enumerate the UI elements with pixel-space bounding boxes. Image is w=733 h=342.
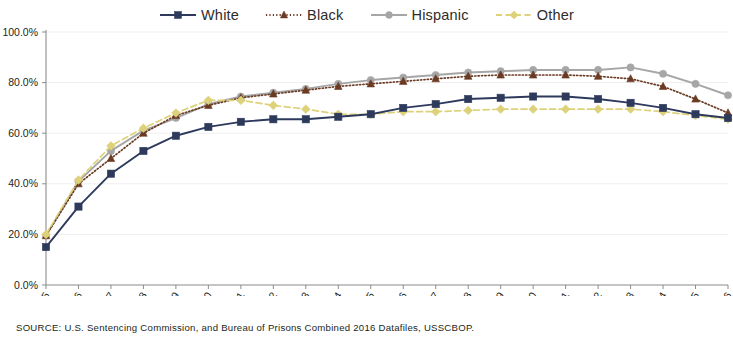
chart-figure: WhiteBlackHispanicOther 0.0%20.0%40.0%60… xyxy=(0,0,733,342)
x-axis-tick-label: 1997 xyxy=(94,290,117,296)
x-axis-tick-label: 2011 xyxy=(549,290,571,296)
data-point xyxy=(594,105,603,114)
x-axis-tick-label: 2014 xyxy=(646,290,669,296)
data-point xyxy=(627,64,634,71)
series-line xyxy=(46,67,728,235)
x-axis-tick-label: 2005 xyxy=(354,290,377,296)
data-point xyxy=(724,114,731,121)
x-axis-tick-label: 2006 xyxy=(386,290,409,296)
data-point xyxy=(367,111,374,118)
data-point xyxy=(302,116,309,123)
legend-label: White xyxy=(201,7,239,23)
x-axis-tick-label: 2015 xyxy=(679,290,702,296)
y-axis-tick-label: 100.0% xyxy=(2,26,38,38)
data-point xyxy=(431,107,440,116)
data-point xyxy=(724,92,731,99)
legend-label: Black xyxy=(307,7,343,23)
x-axis-tick-label: 2007 xyxy=(419,290,442,296)
data-point xyxy=(205,123,212,130)
data-point xyxy=(400,104,407,111)
data-point xyxy=(627,99,634,106)
data-point xyxy=(464,106,473,115)
legend-item-other: Other xyxy=(495,7,574,23)
source-note: SOURCE: U.S. Sentencing Commission, and … xyxy=(16,322,474,333)
plot-area: 0.0%20.0%40.0%60.0%80.0%100.0%1995199619… xyxy=(0,24,733,296)
series-line xyxy=(46,97,728,248)
x-axis-tick-label: 1998 xyxy=(127,290,150,296)
x-axis-tick-label: 2009 xyxy=(484,290,507,296)
series-line xyxy=(46,100,728,234)
y-axis-tick-label: 20.0% xyxy=(8,228,38,240)
x-axis-tick-label: 1999 xyxy=(159,290,182,296)
x-axis-tick-label: 2008 xyxy=(451,290,474,296)
legend-item-hispanic: Hispanic xyxy=(370,7,469,23)
data-point xyxy=(432,101,439,108)
legend-swatch-white-icon xyxy=(159,8,197,22)
series-other xyxy=(42,96,733,239)
x-axis-tick-label: 2000 xyxy=(192,290,215,296)
data-point xyxy=(107,170,114,177)
data-point xyxy=(594,95,601,102)
x-axis-tick-label: 1996 xyxy=(62,290,85,296)
data-point xyxy=(42,243,49,250)
data-point xyxy=(269,101,278,110)
data-point xyxy=(140,147,147,154)
data-point xyxy=(75,203,82,210)
data-point xyxy=(496,105,505,114)
legend-swatch-hispanic-icon xyxy=(370,8,408,22)
x-axis-tick-label: 2004 xyxy=(321,290,344,296)
data-point xyxy=(659,104,666,111)
x-axis-tick-label: 2012 xyxy=(581,290,604,296)
x-axis-tick-label: 2003 xyxy=(289,290,312,296)
x-axis-tick-label: 2001 xyxy=(224,290,247,296)
x-axis-tick-label: 2010 xyxy=(516,290,539,296)
series-line xyxy=(46,75,728,236)
data-point xyxy=(692,80,699,87)
legend-label: Hispanic xyxy=(412,7,469,23)
data-point xyxy=(529,105,538,114)
data-point xyxy=(237,118,244,125)
legend-swatch-black-icon xyxy=(265,8,303,22)
data-point xyxy=(561,105,570,114)
legend-label: Other xyxy=(537,7,574,23)
data-point xyxy=(301,105,310,114)
data-point xyxy=(497,94,504,101)
data-point xyxy=(172,132,179,139)
legend-item-black: Black xyxy=(265,7,343,23)
y-axis-tick-label: 0.0% xyxy=(14,279,38,291)
legend-swatch-other-icon xyxy=(495,8,533,22)
x-axis-tick-label: 2002 xyxy=(256,290,279,296)
x-axis-tick-label: 2016 xyxy=(711,290,733,296)
data-point xyxy=(465,95,472,102)
data-point xyxy=(562,93,569,100)
line-chart-svg: 0.0%20.0%40.0%60.0%80.0%100.0%1995199619… xyxy=(0,24,733,296)
data-point xyxy=(659,70,666,77)
series-white xyxy=(42,93,731,251)
x-axis-tick-label: 2013 xyxy=(614,290,637,296)
data-point xyxy=(692,111,699,118)
y-axis-tick-label: 40.0% xyxy=(8,177,38,189)
legend-item-white: White xyxy=(159,7,239,23)
data-point xyxy=(335,113,342,120)
data-point xyxy=(270,116,277,123)
data-point xyxy=(530,93,537,100)
y-axis-tick-label: 60.0% xyxy=(8,127,38,139)
y-axis-tick-label: 80.0% xyxy=(8,76,38,88)
